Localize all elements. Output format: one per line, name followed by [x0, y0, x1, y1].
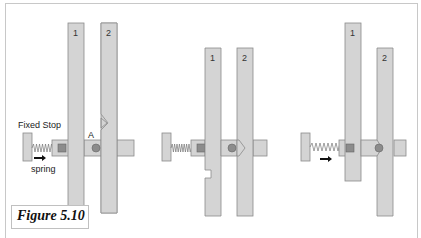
bar-1-label: 1 — [210, 53, 215, 63]
spring-icon — [171, 144, 191, 152]
bar-2-label: 2 — [382, 53, 387, 63]
fixed-stop — [23, 133, 32, 161]
horizontal-bar-end — [253, 140, 267, 156]
mechanism-diagram: .bar { fill: #d4d4d4; stroke: #8a8a8a; s… — [0, 0, 421, 238]
spring-label: spring — [31, 164, 56, 174]
fixed-stop — [301, 133, 310, 161]
pin — [375, 144, 383, 152]
panel-2: 1 2 — [162, 48, 267, 216]
bar-2 — [377, 48, 393, 216]
arrow-right-icon — [34, 155, 46, 161]
bar-1 — [345, 23, 361, 181]
bar-1-label: 1 — [350, 28, 355, 38]
square-block — [346, 144, 354, 152]
arrow-right-icon — [320, 156, 332, 162]
spring-icon — [32, 144, 55, 152]
bar-1 — [68, 23, 84, 213]
panel-3: 1 2 — [301, 23, 406, 216]
bar-2 — [237, 48, 253, 216]
horizontal-bar-end — [394, 140, 406, 156]
pin — [228, 144, 236, 152]
pin — [92, 144, 100, 152]
fixed-stop — [162, 133, 171, 161]
point-a-label: A — [88, 130, 94, 140]
bar-2-label: 2 — [106, 28, 111, 38]
fixed-stop-label: Fixed Stop — [18, 120, 61, 130]
figure-caption-box: Figure 5.10 — [11, 205, 89, 229]
bar-1 — [205, 48, 221, 216]
figure-caption: Figure 5.10 — [17, 208, 85, 224]
square-block — [197, 144, 205, 152]
square-block — [58, 144, 66, 152]
bar-2-label: 2 — [242, 53, 247, 63]
bar-1-label: 1 — [73, 28, 78, 38]
panel-1: Fixed Stop spring A 1 2 — [18, 23, 134, 213]
